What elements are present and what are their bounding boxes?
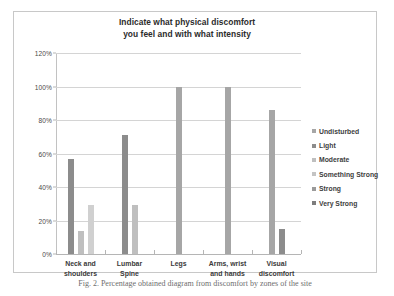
chart-legend: UndisturbedLightModerateSomething Strong… [312, 124, 376, 210]
gridline-0% [56, 254, 301, 255]
plot-area: 0%20%40%60%80%100%120% Neck andshoulders… [56, 53, 301, 254]
legend-label: Strong [319, 185, 341, 192]
bar [132, 205, 138, 254]
category-label-line: Spine [99, 269, 161, 279]
chart-title: Indicate what physical discomfort you fe… [62, 17, 312, 40]
legend-swatch-icon [312, 158, 316, 162]
category-separator [154, 250, 155, 254]
bar-group: Neck andshoulders [56, 53, 105, 254]
bar [269, 110, 275, 254]
legend-item-very-strong[interactable]: Very Strong [312, 196, 376, 210]
bar-group: LumbarSpine [105, 53, 154, 254]
legend-label: Something Strong [319, 171, 378, 178]
legend-swatch-icon [312, 187, 316, 191]
y-tick-label-40%: 40% [39, 184, 53, 191]
legend-swatch-icon [312, 144, 316, 148]
y-tick-label-120%: 120% [35, 50, 52, 57]
legend-label: Light [319, 142, 336, 149]
legend-item-moderate[interactable]: Moderate [312, 153, 376, 167]
y-tick-label-100%: 100% [35, 83, 52, 90]
legend-swatch-icon [312, 201, 316, 205]
bar-group: Arms, wristand hands [203, 53, 252, 254]
category-label-line: discomfort [246, 269, 308, 279]
bar-group: Visualdiscomfort [252, 53, 301, 254]
figure-container: Indicate what physical discomfort you fe… [0, 0, 394, 296]
bar [88, 205, 94, 254]
chart-title-line-1: Indicate what physical discomfort [62, 17, 312, 29]
legend-label: Very Strong [319, 200, 357, 207]
y-tick-label-0%: 0% [42, 251, 52, 258]
legend-item-light[interactable]: Light [312, 138, 376, 152]
bar [78, 231, 84, 254]
category-separator [301, 250, 302, 254]
category-separator [203, 250, 204, 254]
chart-card: Indicate what physical discomfort you fe… [13, 11, 377, 273]
chart-title-line-2: you feel and with what intensity [62, 29, 312, 41]
y-tick-label-60%: 60% [39, 150, 53, 157]
legend-item-something-strong[interactable]: Something Strong [312, 167, 376, 181]
legend-label: Moderate [319, 156, 349, 163]
category-separator [252, 250, 253, 254]
category-separator [105, 250, 106, 254]
category-label: Visualdiscomfort [246, 259, 308, 278]
bar [68, 159, 74, 254]
legend-swatch-icon [312, 129, 316, 133]
legend-item-strong[interactable]: Strong [312, 182, 376, 196]
y-tick-label-80%: 80% [39, 117, 53, 124]
bar [122, 135, 128, 254]
legend-item-undisturbed[interactable]: Undisturbed [312, 124, 376, 138]
legend-label: Undisturbed [319, 128, 359, 135]
bar-group: Legs [154, 53, 203, 254]
bar [176, 87, 182, 255]
category-label-line: Visual [246, 259, 308, 269]
figure-caption: Fig. 2. Percentage obtained diagram from… [13, 279, 377, 296]
y-tick-label-20%: 20% [39, 217, 53, 224]
bar [279, 229, 285, 254]
bar [225, 87, 231, 255]
category-separator [56, 250, 57, 254]
legend-swatch-icon [312, 172, 316, 176]
